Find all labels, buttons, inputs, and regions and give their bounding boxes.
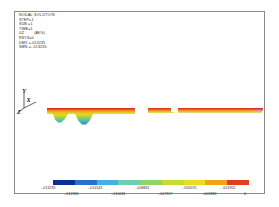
contour-color-legend: -.013235 -.011543 -.008831 -.005075 -.00… (39, 180, 249, 202)
legend-tick-bot-2: -.010031 (111, 192, 126, 196)
legend-tick-bot-5: 0 (244, 192, 246, 196)
model-contour-area: Y X Z (15, 12, 264, 193)
legend-tick-top-1: -.013235 (41, 186, 56, 190)
contour-band-tail (253, 108, 263, 111)
legend-tick-top-4: -.005075 (182, 186, 197, 190)
svg-text:Y: Y (22, 88, 27, 94)
contour-band-right (178, 108, 262, 113)
legend-tick-top-3: -.008831 (135, 186, 150, 190)
legend-tick-bot-3: -.007157 (158, 192, 173, 196)
plot-frame: NODAL SOLUTION STEP=1 SUB =1 TIME=1 UZ(A… (14, 11, 265, 194)
deflection-dip-1 (52, 112, 69, 123)
deflection-dip-2 (74, 112, 94, 125)
legend-tick-bot-1: -.012330 (64, 192, 79, 196)
ansys-contour-plot-window: NODAL SOLUTION STEP=1 SUB =1 TIME=1 UZ(A… (0, 0, 279, 207)
legend-tick-labels: -.013235 -.011543 -.008831 -.005075 -.00… (39, 185, 249, 201)
legend-tick-top-5: -.001902 (221, 186, 236, 190)
axis-triad: Y X Z (17, 88, 43, 114)
svg-text:X: X (26, 96, 32, 103)
svg-text:Z: Z (17, 108, 21, 114)
legend-tick-bot-4: -.003384 (202, 192, 217, 196)
legend-tick-top-2: -.011543 (88, 186, 102, 190)
